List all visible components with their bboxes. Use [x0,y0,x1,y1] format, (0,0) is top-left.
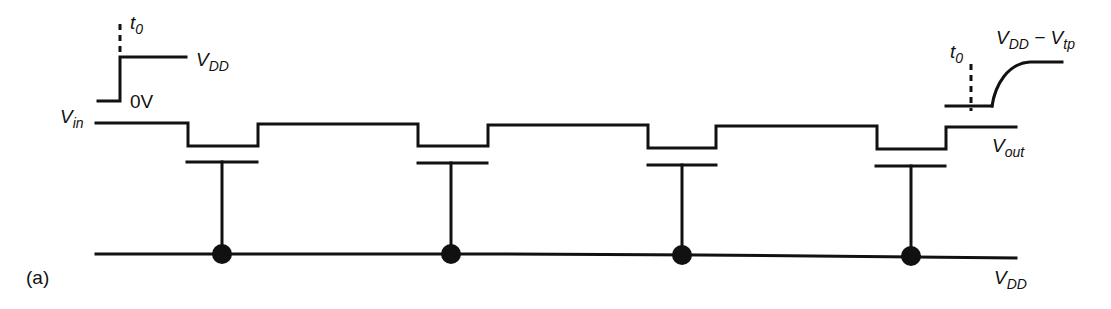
vdd-label: VDD [994,267,1027,292]
output-final-value-label: VDD − Vtp [996,27,1075,52]
transistor-m4 [876,166,945,266]
transistor-m1 [187,162,257,264]
input-0v-label: 0V [130,91,154,112]
input-t0-label: t0 [130,12,143,37]
input-vdd-label: VDD [196,49,229,74]
vdd-rail [96,254,1016,258]
signal-path [96,123,1016,149]
output-t0-label: t0 [950,41,963,66]
vin-label: Vin [60,106,84,131]
panel-label: (a) [26,267,49,288]
vout-label: Vout [992,135,1025,160]
transistor-m2 [418,163,487,264]
input-step-waveform: t0 VDD 0V [98,12,229,112]
pass-transistor-chain-diagram: t0 VDD 0V t0 VDD − Vtp Vin Vout VDD [0,0,1111,309]
transistor-m3 [648,165,716,265]
output-rising-waveform: t0 VDD − Vtp [946,27,1075,111]
